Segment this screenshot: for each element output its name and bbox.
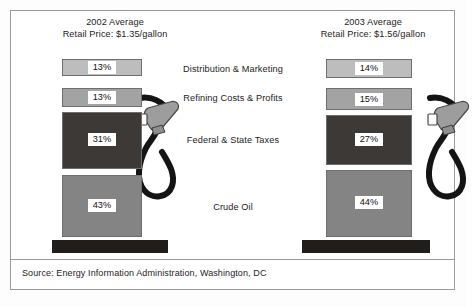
segment-crude-left: 43% [62,175,142,237]
segment-distribution-left: 13% [62,59,142,76]
segment-value-crude-right: 44% [355,196,384,209]
pump-base-right [302,240,430,253]
pump-graphic-2003: 14% 15% 27% 44% [264,0,464,260]
segment-taxes-right: 27% [326,115,412,165]
segment-value-taxes-right: 27% [355,133,384,146]
pump-graphic-2002: 13% 13% 31% 43% [0,0,200,260]
segment-value-refining-right: 15% [355,93,384,106]
segment-value-crude-left: 43% [88,199,117,212]
segment-taxes-left: 31% [62,112,142,169]
gas-nozzle-icon-right [408,88,474,238]
segment-value-taxes-left: 31% [88,133,117,146]
segment-refining-left: 13% [62,88,142,107]
segment-value-distribution-left: 13% [88,61,117,74]
pump-base-left [52,240,168,253]
segment-crude-right: 44% [326,170,412,237]
segment-refining-right: 15% [326,88,412,110]
source-note: Source: Energy Information Administratio… [22,268,266,278]
footer-divider [11,259,454,260]
segment-value-refining-left: 13% [88,91,117,104]
category-label-crude-text: Crude Oil [213,202,253,212]
segment-distribution-right: 14% [326,59,412,78]
segment-value-distribution-right: 14% [355,62,384,75]
